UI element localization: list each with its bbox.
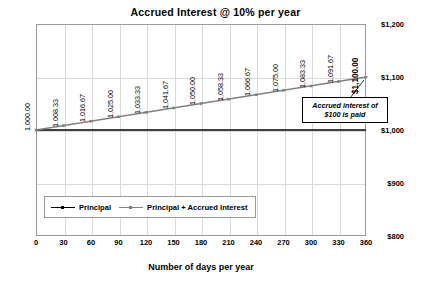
x-tick-label: 0 — [21, 238, 51, 247]
data-label: 1,050.00 — [188, 77, 197, 105]
y-tick-label: $1,000 — [370, 126, 404, 135]
x-tick-label: 270 — [269, 238, 299, 247]
y-tick-label: $1,100 — [370, 73, 404, 82]
legend-label-principal: Principal — [79, 203, 111, 212]
data-label: 1,025.00 — [106, 90, 115, 118]
data-label: 1,008.33 — [51, 99, 60, 127]
chart-container: Accrued Interest @ 10% per year — [0, 0, 431, 284]
x-tick-label: 90 — [104, 238, 134, 247]
legend-swatch-accrued-icon — [119, 207, 143, 208]
legend-swatch-principal-icon — [51, 207, 75, 208]
data-label: 1,041.67 — [161, 81, 170, 109]
x-tick-label: 240 — [241, 238, 271, 247]
legend-label-accrued: Principal + Accrued Interest — [147, 203, 247, 212]
x-tick-label: 30 — [49, 238, 79, 247]
x-axis-title: Number of days per year — [36, 262, 366, 272]
x-tick-label: 300 — [296, 238, 326, 247]
data-label: 1,091.67 — [326, 55, 335, 83]
y-tick-label: $900 — [370, 179, 404, 188]
x-tick-label: 210 — [214, 238, 244, 247]
chart-legend: Principal Principal + Accrued Interest — [44, 196, 256, 218]
legend-item-accrued: Principal + Accrued Interest — [119, 203, 247, 212]
x-tick-label: 60 — [76, 238, 106, 247]
x-tick-label: 150 — [159, 238, 189, 247]
x-tick-label: 330 — [324, 238, 354, 247]
legend-item-principal: Principal — [51, 203, 111, 212]
data-label: 1,000.00 — [23, 103, 32, 131]
x-tick-label: 120 — [131, 238, 161, 247]
annotation-callout: Accrued interest of $100 is paid — [302, 97, 388, 123]
x-tick-label: 360 — [351, 238, 381, 247]
data-label: 1,083.33 — [298, 60, 307, 88]
x-tick-label: 180 — [186, 238, 216, 247]
data-label: 1,033.33 — [133, 86, 142, 114]
chart-title: Accrued Interest @ 10% per year — [0, 6, 431, 18]
y-tick-label: $1,200 — [370, 20, 404, 29]
data-label: 1,058.33 — [216, 73, 225, 101]
data-label: 1,016.67 — [78, 94, 87, 122]
data-label: 1,066.67 — [243, 68, 252, 96]
data-label: 1,075.00 — [271, 64, 280, 92]
data-label-final: $1,100.00 — [351, 58, 360, 94]
